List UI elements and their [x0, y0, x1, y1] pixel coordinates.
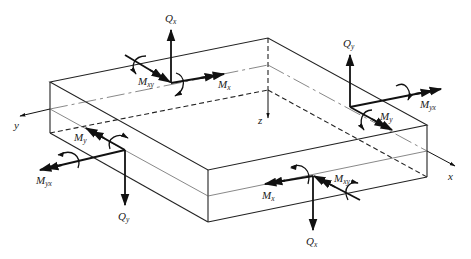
plate-element-diagram: y x z Qx Mx Mxy Qy Myx My Qy: [0, 0, 471, 259]
mxy-top-label: Mxy: [137, 75, 155, 89]
myx-right-label: Myx: [419, 98, 437, 112]
mxy-top-double-head: [150, 70, 163, 78]
forces-front-x-face: Qx Mx Mxy: [261, 164, 360, 249]
mx-top-double-head: [200, 76, 216, 79]
plate-box: [50, 38, 427, 222]
mxy-bottom-double-head: [320, 179, 335, 187]
plate-hidden-bottom-back-right: [268, 90, 427, 177]
mx-top-arrow: [171, 74, 224, 83]
myx-left-label: Myx: [35, 174, 53, 188]
my-left-double-head: [92, 132, 104, 139]
mx-top-label: Mx: [217, 78, 231, 92]
my-left-label: My: [73, 131, 87, 145]
mid-surface-back-right: [268, 65, 427, 151]
mx-bottom-label: Mx: [261, 189, 275, 203]
qx-bottom-label: Qx: [306, 235, 318, 249]
qy-left-label: Qy: [118, 210, 130, 224]
plate-hidden-bottom-back-left: [50, 90, 268, 133]
qy-right-label: Qy: [343, 37, 355, 51]
mid-surface-front-right: [208, 151, 427, 196]
plate-top-face: [50, 38, 427, 170]
mid-surface-left-front: [50, 109, 208, 196]
qx-top-label: Qx: [165, 12, 177, 26]
my-left-arrow: [86, 128, 125, 150]
plate-bottom-edge-left: [50, 133, 208, 222]
mid-surface-back-left: [50, 65, 268, 109]
y-axis-label: y: [13, 119, 19, 131]
z-axis-label: z: [257, 114, 263, 126]
myx-right-double-head: [415, 91, 432, 94]
plate-bottom-edge-right: [208, 177, 427, 222]
myx-left-double-head: [47, 165, 62, 169]
my-right-label: My: [379, 110, 393, 124]
forces-left-y-face: Qy Myx My: [35, 128, 130, 224]
x-axis-arrow: [427, 151, 455, 166]
forces-right-y-face: Qy Myx My: [343, 37, 441, 130]
mx-rotation-icon: [175, 73, 183, 96]
mx-bottom-double-head: [271, 181, 285, 184]
mxy-bottom-label: Mxy: [333, 172, 351, 186]
x-axis-label: x: [447, 170, 453, 182]
y-axis-arrow: [20, 109, 50, 116]
